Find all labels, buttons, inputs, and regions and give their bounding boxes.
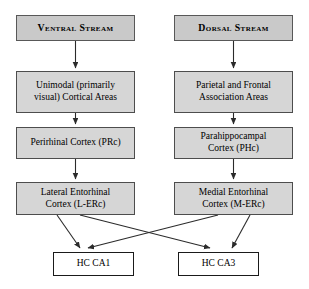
node-parahippocampal-cortex: Parahippocampal Cortex (PHc): [174, 127, 293, 159]
node-label: HC CA1: [77, 258, 111, 270]
node-label: Perirhinal Cortex (PRc): [30, 137, 120, 149]
pathway-diagram: Ventral Stream Dorsal Stream Unimodal (p…: [0, 0, 309, 289]
node-label: Ventral Stream: [38, 22, 114, 34]
node-label: Unimodal (primarily visual) Cortical Are…: [34, 80, 117, 104]
node-label: Parietal and Frontal Association Areas: [196, 80, 271, 104]
edge-merc-to-ca3: [232, 215, 250, 248]
node-hc-ca3: HC CA3: [178, 252, 259, 276]
node-perirhinal-cortex: Perirhinal Cortex (PRc): [16, 127, 135, 159]
node-parietal-frontal-association-areas: Parietal and Frontal Association Areas: [174, 71, 293, 113]
edge-merc-to-ca1: [88, 215, 218, 248]
node-label: Medial Entorhinal Cortex (M-ERc): [199, 187, 268, 211]
edge-lerc-to-ca3: [80, 215, 210, 248]
node-dorsal-stream: Dorsal Stream: [174, 15, 293, 41]
node-lateral-entorhinal-cortex: Lateral Entorhinal Cortex (L-ERc): [16, 182, 135, 215]
node-medial-entorhinal-cortex: Medial Entorhinal Cortex (M-ERc): [174, 182, 293, 215]
node-label: Lateral Entorhinal Cortex (L-ERc): [41, 187, 110, 211]
node-hc-ca1: HC CA1: [53, 252, 134, 276]
edge-lerc-to-ca1: [57, 215, 80, 248]
node-label: HC CA3: [202, 258, 236, 270]
node-label: Dorsal Stream: [198, 22, 268, 34]
node-ventral-stream: Ventral Stream: [16, 15, 135, 41]
node-label: Parahippocampal Cortex (PHc): [201, 131, 267, 155]
node-unimodal-visual-cortical-areas: Unimodal (primarily visual) Cortical Are…: [16, 71, 135, 113]
